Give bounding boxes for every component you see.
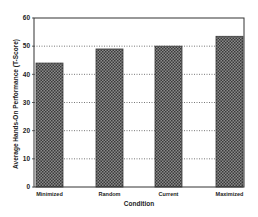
bar-maximized	[216, 36, 243, 187]
x-tick-label: Minimized	[36, 191, 63, 197]
y-tick-label: 10	[23, 155, 31, 162]
y-axis-ticks: 0102030405060	[23, 14, 34, 190]
bar-random	[96, 49, 123, 187]
y-tick-label: 40	[23, 71, 31, 78]
bar-minimized	[36, 63, 63, 187]
bar-current	[155, 46, 182, 187]
x-tick-label: Current	[159, 191, 179, 197]
x-tick-label: Random	[99, 191, 121, 197]
y-tick-label: 0	[26, 183, 30, 190]
gridlines	[34, 46, 244, 159]
y-axis-title: Average Hands-On Performance (T-Score)	[12, 39, 20, 169]
y-tick-label: 60	[23, 14, 31, 21]
x-axis-category-labels: MinimizedRandomCurrentMaximized	[36, 191, 243, 197]
y-tick-label: 20	[23, 127, 31, 134]
bar-chart: 0102030405060 MinimizedRandomCurrentMaxi…	[0, 0, 258, 217]
x-tick-label: Maximized	[216, 191, 244, 197]
y-tick-label: 30	[23, 99, 31, 106]
x-axis-title: Condition	[124, 200, 154, 207]
y-tick-label: 50	[23, 42, 31, 49]
bars	[36, 36, 243, 187]
